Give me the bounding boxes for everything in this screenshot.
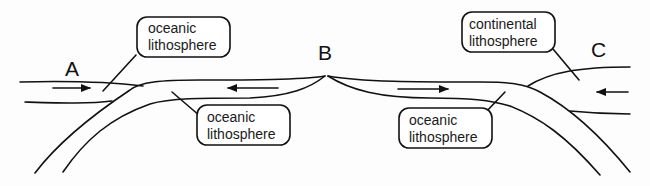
- svg-text:oceanic: oceanic: [148, 20, 196, 36]
- point-label-c: C: [591, 38, 606, 61]
- point-label-a: A: [65, 57, 79, 80]
- leader-line: [103, 55, 136, 91]
- continental-plate: [528, 67, 630, 114]
- svg-text:lithosphere: lithosphere: [207, 126, 276, 142]
- label-oceanic-lithosphere-bottom-right: oceanic lithosphere: [399, 108, 492, 148]
- svg-text:lithosphere: lithosphere: [409, 129, 478, 145]
- point-label-b: B: [318, 41, 332, 64]
- leader-line: [172, 92, 200, 116]
- svg-text:oceanic: oceanic: [409, 112, 457, 128]
- svg-text:lithosphere: lithosphere: [469, 33, 538, 49]
- svg-text:continental: continental: [469, 16, 537, 32]
- plate-tectonics-diagram: A B C oceanic lithosphere oceanic lithos…: [0, 0, 650, 186]
- svg-text:lithosphere: lithosphere: [148, 37, 217, 53]
- label-continental-lithosphere: continental lithosphere: [462, 12, 555, 52]
- left-oceanic-plate: [20, 82, 143, 103]
- label-oceanic-lithosphere-bottom: oceanic lithosphere: [197, 105, 290, 145]
- label-oceanic-lithosphere-top-left: oceanic lithosphere: [137, 17, 230, 57]
- leader-line: [553, 49, 579, 80]
- svg-text:oceanic: oceanic: [207, 109, 255, 125]
- diagram-canvas: A B C oceanic lithosphere oceanic lithos…: [0, 0, 650, 186]
